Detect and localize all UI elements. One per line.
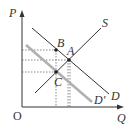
demand-label: D (110, 89, 120, 103)
origin-label: O (13, 109, 22, 123)
demand-shifted-label: D' (93, 93, 106, 107)
point-C-label: C (54, 75, 63, 89)
x-axis-label: Q (117, 111, 126, 125)
point-A-label: A (66, 44, 75, 58)
y-axis-arrow-icon (20, 10, 25, 17)
point-A (67, 58, 71, 62)
x-axis-arrow-icon (117, 105, 124, 110)
supply-demand-diagram: P Q O S D D' B A C (0, 0, 134, 130)
y-axis-label: P (8, 6, 17, 20)
demand-curve-shifted (26, 45, 92, 102)
supply-label: S (102, 16, 108, 30)
point-B-label: B (57, 36, 65, 50)
point-C (54, 70, 58, 74)
